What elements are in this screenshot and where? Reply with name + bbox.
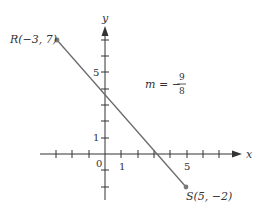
y-tick-label-1: 1	[93, 132, 99, 143]
y-axis-label: y	[101, 12, 109, 25]
slope-prefix: m = −	[145, 78, 181, 91]
x-tick-label-5: 5	[184, 161, 190, 172]
coordinate-plane: y x 0 1 5 1 5 R(−3, 7) S(5, −2) m = − 9 …	[0, 0, 256, 214]
x-axis	[40, 150, 234, 158]
x-tick-label-1: 1	[119, 161, 125, 172]
slope-annotation: m = − 9 8	[145, 72, 186, 96]
x-axis-label: x	[246, 148, 253, 161]
point-s-label: S(5, −2)	[186, 190, 232, 203]
slope-numerator: 9	[179, 72, 185, 82]
point-s	[184, 185, 189, 190]
y-tick-label-5: 5	[93, 67, 99, 78]
point-s-label-text: S(5, −2)	[186, 190, 232, 203]
y-axis-arrow-icon	[102, 26, 109, 36]
origin-label: 0	[96, 158, 102, 169]
x-axis-arrow-icon	[232, 151, 242, 158]
y-axis	[101, 34, 109, 200]
slope-denominator: 8	[179, 86, 185, 96]
point-r-label: R(−3, 7)	[9, 33, 57, 46]
point-r-label-text: R(−3, 7)	[9, 33, 57, 46]
